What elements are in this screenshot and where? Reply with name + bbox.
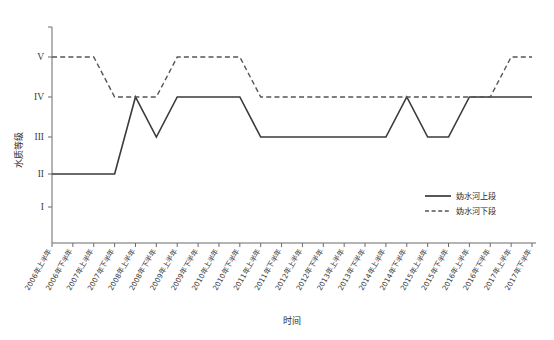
x-axis: [52, 243, 536, 247]
y-tick-label-II: II: [38, 169, 44, 179]
y-tick-label-IV: IV: [34, 92, 44, 102]
legend-label-1: 妫水河上段: [456, 191, 496, 201]
chart-legend: 妫水河上段妫水河下段: [425, 191, 496, 216]
y-axis: IIIIIIIVV: [34, 27, 52, 243]
chart-figure: IIIIIIIVV 2006年上半年2006年下半年2007年上半年2007年下…: [0, 0, 554, 340]
y-tick-label-III: III: [35, 132, 45, 142]
x-tick-labels: 2006年上半年2006年下半年2007年上半年2007年下半年2008年上半年…: [23, 248, 534, 293]
y-axis-title: 水质等级: [13, 132, 24, 168]
x-axis-title: 时间: [283, 315, 301, 326]
y-tick-label-V: V: [37, 52, 44, 62]
series-line-2: [52, 57, 532, 97]
legend-label-2: 妫水河下段: [456, 206, 496, 216]
y-tick-label-I: I: [41, 202, 44, 212]
data-series-group: [52, 57, 532, 174]
line-chart-canvas: IIIIIIIVV 2006年上半年2006年下半年2007年上半年2007年下…: [0, 0, 554, 340]
series-line-1: [52, 97, 532, 174]
